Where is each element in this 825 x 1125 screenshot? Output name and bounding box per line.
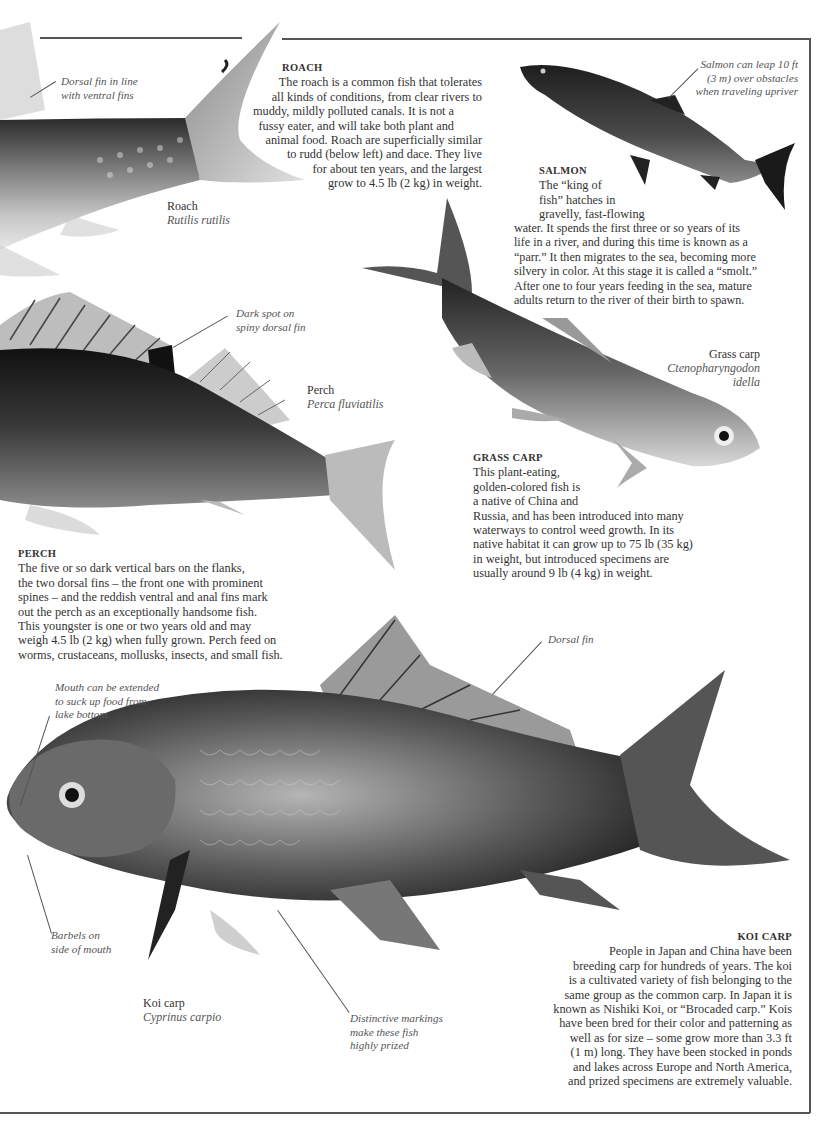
roach-common-name: Roach (167, 199, 230, 213)
roach-annotation: Dorsal fin in line with ventral fins (61, 75, 138, 102)
grass-carp-fish-image (362, 198, 762, 488)
perch-annotation: Dark spot on spiny dorsal fin (236, 307, 306, 334)
salmon-heading: SALMON (539, 164, 809, 178)
grass-carp-caption: Grass carp Ctenopharyngodon idella (620, 347, 760, 389)
grass-carp-common-name: Grass carp (620, 347, 760, 361)
frame-top-right-rule (282, 38, 810, 40)
roach-caption: Roach Rutilis rutilis (167, 199, 230, 227)
roach-heading: ROACH (250, 61, 482, 75)
grass-carp-heading: GRASS CARP (473, 451, 763, 465)
koi-common-name: Koi carp (143, 996, 221, 1010)
koi-markings-annotation: Distinctive markings make these fish hig… (350, 1012, 443, 1053)
grass-carp-latin-name-1: Ctenopharyngodon (620, 361, 760, 375)
perch-heading: PERCH (18, 547, 318, 561)
perch-fish-image (0, 290, 400, 550)
koi-dorsal-annotation: Dorsal fin (548, 633, 594, 647)
koi-mouth-annotation: Mouth can be extended to suck up food fr… (55, 681, 159, 722)
salmon-annotation: Salmon can leap 10 ft (3 m) over obstacl… (660, 58, 798, 99)
roach-text-block: ROACH The roach is a common fish that to… (250, 61, 482, 191)
frame-right-rule (809, 38, 811, 1113)
grass-carp-text-block: GRASS CARP This plant-eating, golden-col… (473, 451, 763, 581)
koi-text-block: KOI CARP People in Japan and China have … (520, 930, 792, 1088)
koi-barbels-annotation: Barbels on side of mouth (51, 929, 111, 956)
koi-caption: Koi carp Cyprinus carpio (143, 996, 221, 1024)
grass-carp-latin-name-2: idella (620, 375, 760, 389)
roach-latin-name: Rutilis rutilis (167, 213, 230, 227)
frame-bottom-rule (0, 1112, 810, 1114)
koi-heading: KOI CARP (520, 930, 792, 944)
koi-latin-name: Cyprinus carpio (143, 1010, 221, 1024)
